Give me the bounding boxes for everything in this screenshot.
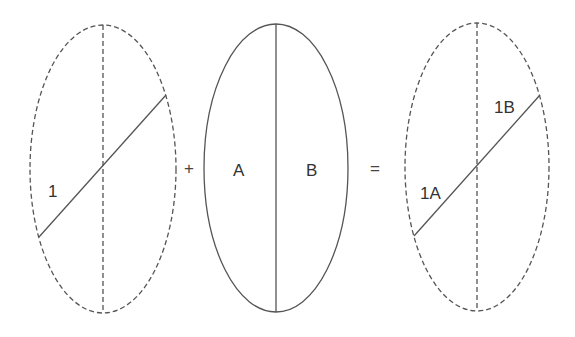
equals-sign: =	[370, 159, 380, 178]
label-1a: 1A	[420, 184, 441, 203]
label-b: B	[306, 161, 317, 180]
plus-sign: +	[184, 159, 194, 178]
middle-ellipse-group: A B	[204, 24, 348, 312]
right-diagonal-line	[414, 95, 540, 236]
label-1: 1	[48, 182, 57, 201]
left-ellipse-group: 1	[30, 25, 176, 313]
diagram-canvas: 1 + A B = 1A 1B	[0, 0, 575, 337]
label-a: A	[233, 161, 245, 180]
label-1b: 1B	[494, 98, 515, 117]
right-ellipse-group: 1A 1B	[405, 23, 549, 311]
